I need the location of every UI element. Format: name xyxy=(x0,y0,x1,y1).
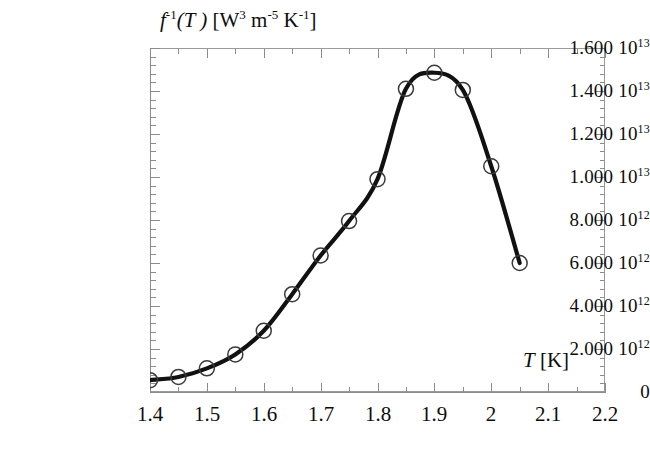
x-tick-label: 2.2 xyxy=(570,402,640,426)
y-axis-title-unit-open: [W xyxy=(212,8,239,32)
y-axis-title-m-exp: -5 xyxy=(267,7,278,22)
y-axis-title-fn-exp: -1 xyxy=(166,7,177,22)
y-axis-title-m: m xyxy=(246,8,268,32)
data-markers xyxy=(150,65,527,387)
data-curve xyxy=(150,73,520,381)
y-axis-title-k-exp: -1 xyxy=(299,7,310,22)
data-layer xyxy=(150,48,605,392)
y-axis-title: f-1(T ) [W3 m-5 K-1] xyxy=(160,8,317,32)
y-axis-title-fn-arg: (T ) xyxy=(177,8,208,32)
y-axis-title-unit-close: ] xyxy=(310,8,317,32)
y-tick-major xyxy=(151,392,160,393)
chart-figure: f-1(T ) [W3 m-5 K-1] T [K] 02.000 10124.… xyxy=(0,0,650,456)
y-axis-title-k: K xyxy=(278,8,298,32)
